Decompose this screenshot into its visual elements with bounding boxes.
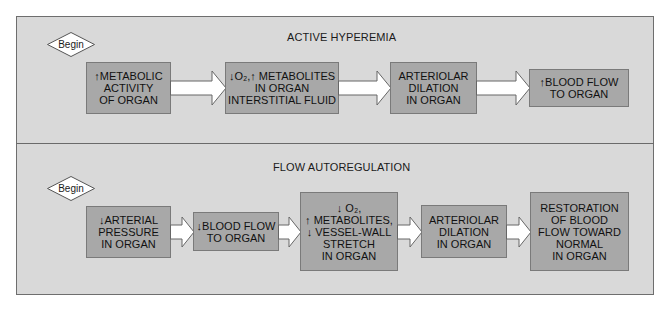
step-text: ↓O₂,↑ METABOLITES IN ORGAN INTERSTITIAL … [228,70,336,106]
step-decreased-blood-flow: ↓BLOOD FLOW TO ORGAN [193,212,279,251]
arrow-right-icon [506,216,532,248]
step-text: ARTERIOLAR DILATION IN ORGAN [398,70,468,106]
arrow-right-icon [170,70,227,106]
step-decreased-arterial-pressure: ↓ARTERIAL PRESSURE IN ORGAN [86,206,171,258]
step-arteriolar-dilation: ARTERIOLAR DILATION IN ORGAN [390,62,477,114]
arrow-right-icon [397,216,423,248]
begin-diamond-flow-autoregulation: Begin [47,176,95,201]
step-text: ↓ O₂, ↑ METABOLITES, ↓ VESSEL-WALL STRET… [305,202,393,262]
step-text: ARTERIOLAR DILATION IN ORGAN [429,214,499,250]
arrow-right-icon [476,70,531,106]
panel-divider [16,143,654,144]
step-text: ↑METABOLIC ACTIVITY OF ORGAN [94,70,162,106]
arrow-right-icon [278,216,302,248]
step-text: ↓BLOOD FLOW TO ORGAN [197,220,276,244]
step-text: ↑BLOOD FLOW TO ORGAN [540,76,619,100]
begin-diamond-active-hyperemia: Begin [47,32,95,57]
arrow-right-icon [170,216,195,248]
step-text: ↓ARTERIAL PRESSURE IN ORGAN [98,214,159,250]
step-restoration-blood-flow: RESTORATION OF BLOOD FLOW TOWARD NORMAL … [530,192,629,271]
step-text: RESTORATION OF BLOOD FLOW TOWARD NORMAL … [538,202,621,262]
step-arteriolar-dilation-autoregulation: ARTERIOLAR DILATION IN ORGAN [421,205,507,258]
step-o2-metabolites-stretch: ↓ O₂, ↑ METABOLITES, ↓ VESSEL-WALL STRET… [300,192,398,271]
panel-title-active-hyperemia: ACTIVE HYPEREMIA [287,31,396,43]
arrow-right-icon [338,70,392,106]
panel-title-flow-autoregulation: FLOW AUTOREGULATION [273,161,410,173]
begin-label: Begin [47,176,95,201]
step-increased-blood-flow: ↑BLOOD FLOW TO ORGAN [529,69,629,107]
step-o2-metabolites-interstitial: ↓O₂,↑ METABOLITES IN ORGAN INTERSTITIAL … [225,62,339,114]
begin-label: Begin [47,32,95,57]
step-metabolic-activity: ↑METABOLIC ACTIVITY OF ORGAN [86,62,171,114]
